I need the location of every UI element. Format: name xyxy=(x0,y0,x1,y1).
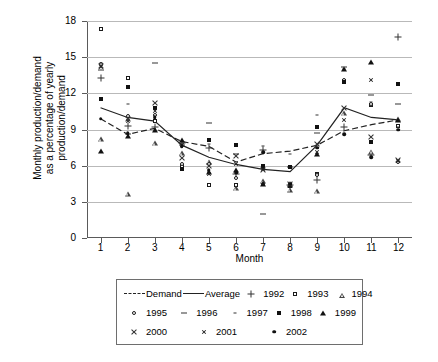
data-point-2001 xyxy=(125,119,130,124)
y-tick-label: 0 xyxy=(54,233,76,243)
legend-item-1993[interactable]: 1993 xyxy=(284,289,328,299)
x-axis-title: Month xyxy=(87,253,412,265)
legend-label: Demand xyxy=(145,289,182,299)
data-point-1998 xyxy=(342,80,346,84)
data-point-1999 xyxy=(341,67,347,72)
data-point-2002 xyxy=(315,146,319,150)
data-point-1998 xyxy=(180,167,184,171)
data-point-2000 xyxy=(368,133,375,140)
data-point-1995 xyxy=(234,176,238,180)
data-point-2001 xyxy=(152,109,157,114)
data-point-1999 xyxy=(395,117,401,122)
legend-label: 1998 xyxy=(290,308,312,318)
average-line xyxy=(101,108,399,172)
legend-item-1995[interactable]: 1995 xyxy=(123,308,173,318)
data-point-1994 xyxy=(368,149,374,154)
data-point-1997 xyxy=(126,104,129,105)
legend-marker-dashed-line-icon xyxy=(123,289,145,299)
legend-label: 1997 xyxy=(246,308,268,318)
data-point-1999 xyxy=(260,181,266,186)
data-point-1992 xyxy=(395,33,402,40)
data-point-1998 xyxy=(99,97,103,101)
data-point-2002 xyxy=(261,151,265,155)
data-point-1997 xyxy=(207,143,210,144)
legend-marker-long-dash-icon xyxy=(173,308,195,318)
legend-marker-open-triangle-icon xyxy=(328,289,350,299)
legend-item-demand[interactable]: Demand xyxy=(123,289,182,299)
legend-marker-plus-icon xyxy=(240,289,262,299)
data-point-1994 xyxy=(125,191,131,196)
y-tick-label: 12 xyxy=(54,88,76,98)
data-point-2002 xyxy=(397,128,401,132)
legend-item-1999[interactable]: 1999 xyxy=(312,308,356,318)
legend-item-1998[interactable]: 1998 xyxy=(268,308,312,318)
y-tick-label: 18 xyxy=(54,16,76,26)
data-point-1996 xyxy=(395,104,401,105)
legend-marker-star-x-icon xyxy=(193,327,215,337)
data-point-2001 xyxy=(206,172,211,177)
data-point-1997 xyxy=(262,146,265,147)
data-point-2001 xyxy=(233,162,238,167)
legend-label: 2000 xyxy=(145,327,167,337)
data-point-1992 xyxy=(97,74,104,81)
data-point-2002 xyxy=(180,145,184,149)
data-point-1996 xyxy=(260,213,266,214)
legend-label: 1996 xyxy=(195,308,217,318)
data-point-2002 xyxy=(342,133,346,137)
legend-item-1996[interactable]: 1996 xyxy=(173,308,223,318)
data-point-2002 xyxy=(370,155,374,159)
data-point-1999 xyxy=(152,127,158,132)
data-point-2002 xyxy=(207,169,211,173)
legend-label: 1999 xyxy=(334,308,356,318)
data-point-1996 xyxy=(206,123,212,124)
data-point-1993 xyxy=(207,183,211,187)
data-point-1994 xyxy=(152,141,158,146)
data-point-1998 xyxy=(315,125,319,129)
y-tick-label: 3 xyxy=(54,197,76,207)
y-tick xyxy=(82,238,87,239)
legend-marker-short-tick-icon xyxy=(224,308,246,318)
legend-row: DemandAverage199219931994 xyxy=(123,284,356,303)
trend-lines xyxy=(87,21,412,238)
legend-item-2000[interactable]: 2000 xyxy=(123,327,193,337)
legend-marker-cross-x-icon xyxy=(123,327,145,337)
data-point-1998 xyxy=(126,85,130,89)
legend-marker-solid-line-icon xyxy=(182,289,204,299)
y-tick-label: 15 xyxy=(54,52,76,62)
legend-item-average[interactable]: Average xyxy=(182,289,240,299)
data-point-1994 xyxy=(98,137,104,142)
legend-item-1994[interactable]: 1994 xyxy=(328,289,372,299)
legend-item-2001[interactable]: 2001 xyxy=(193,327,263,337)
data-point-1996 xyxy=(152,63,158,64)
data-point-1998 xyxy=(288,165,292,169)
data-point-1993 xyxy=(153,119,157,123)
legend-marker-filled-square-icon xyxy=(268,308,290,318)
data-point-1996 xyxy=(98,70,104,71)
data-point-2001 xyxy=(261,167,266,172)
data-point-2002 xyxy=(126,131,130,135)
y-tick-label: 6 xyxy=(54,161,76,171)
data-point-2000 xyxy=(178,155,185,162)
legend-label: 2002 xyxy=(285,327,307,337)
data-point-1994 xyxy=(287,187,293,192)
y-tick-label: 9 xyxy=(54,125,76,135)
data-point-1995 xyxy=(180,162,184,166)
legend-item-2002[interactable]: 2002 xyxy=(263,327,307,337)
legend-row: 200020012002 xyxy=(123,322,356,341)
data-point-2001 xyxy=(369,78,374,83)
data-point-2000 xyxy=(341,104,348,111)
data-point-1999 xyxy=(368,59,374,64)
legend-row: 19951996199719981999 xyxy=(123,303,356,322)
data-point-1997 xyxy=(370,101,373,102)
data-point-1992 xyxy=(314,177,321,184)
legend: DemandAverage199219931994 19951996199719… xyxy=(116,279,363,345)
data-point-1998 xyxy=(396,82,400,86)
data-point-2002 xyxy=(288,182,292,186)
legend-marker-open-square-icon xyxy=(284,289,306,299)
legend-label: 1993 xyxy=(306,289,328,299)
legend-item-1997[interactable]: 1997 xyxy=(224,308,268,318)
demand-line xyxy=(101,119,399,162)
data-point-2000 xyxy=(232,153,239,160)
legend-item-1992[interactable]: 1992 xyxy=(240,289,284,299)
legend-marker-filled-triangle-icon xyxy=(312,308,334,318)
